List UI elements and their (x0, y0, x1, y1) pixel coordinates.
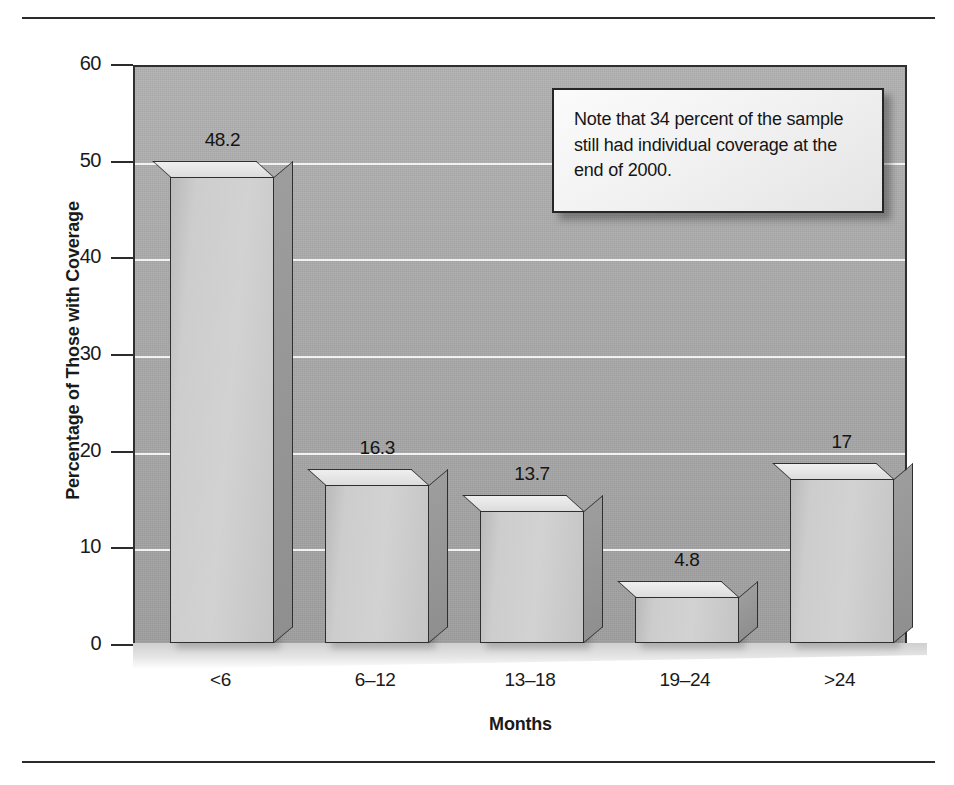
y-axis: 0102030405060 (0, 0, 133, 785)
bar-3: 13.7 (480, 511, 584, 643)
x-axis-title: Months (133, 714, 908, 735)
x-axis-tick-label: 19–24 (633, 669, 737, 691)
y-axis-tick-label: 30 (80, 342, 101, 365)
bar-value-label: 13.7 (480, 463, 584, 485)
bar-top-face (617, 581, 739, 597)
y-axis-tick-label: 10 (80, 535, 101, 558)
bar-top-face (307, 469, 429, 485)
bar-4: 4.8 (635, 597, 739, 643)
bar-front-face (790, 479, 894, 643)
bar-value-label: 16.3 (325, 437, 429, 459)
bar-front-face (480, 511, 584, 643)
bar-top-face (153, 161, 275, 177)
x-axis-tick-label: 13–18 (478, 669, 582, 691)
bar-5: 17 (790, 479, 894, 643)
bar-value-label: 4.8 (635, 549, 739, 571)
bar-value-label: 17 (790, 431, 894, 453)
bar-side-face (274, 161, 293, 643)
bar-2: 16.3 (325, 485, 429, 643)
y-axis-tick-label: 60 (80, 52, 101, 75)
y-axis-tick-label: 50 (80, 149, 101, 172)
top-divider-rule (22, 17, 935, 19)
bar-front-face (325, 485, 429, 643)
bar-top-face (462, 495, 584, 511)
note-callout: Note that 34 percent of the sample still… (552, 88, 884, 213)
bottom-divider-rule (22, 761, 935, 763)
bar-front-face (635, 597, 739, 643)
y-axis-tick-mark (111, 451, 133, 453)
x-axis-tick-label: >24 (788, 669, 892, 691)
figure-container: Percentage of Those with Coverage Months… (0, 0, 954, 785)
x-axis-tick-label: <6 (168, 669, 272, 691)
y-axis-tick-label: 20 (80, 439, 101, 462)
bar-top-face (772, 463, 894, 479)
bar-side-face (584, 495, 603, 643)
y-axis-tick-mark (111, 354, 133, 356)
bar-side-face (429, 469, 448, 643)
y-axis-tick-label: 40 (80, 245, 101, 268)
y-axis-tick-mark (111, 64, 133, 66)
y-axis-tick-mark (111, 257, 133, 259)
y-axis-tick-mark (111, 161, 133, 163)
bar-side-face (894, 463, 913, 643)
y-axis-tick-label: 0 (90, 632, 101, 655)
y-axis-tick-mark (111, 644, 133, 646)
bar-1: 48.2 (170, 177, 274, 643)
x-axis-tick-label: 6–12 (323, 669, 427, 691)
bar-value-label: 48.2 (170, 129, 274, 151)
bar-front-face (170, 177, 274, 643)
y-axis-tick-mark (111, 547, 133, 549)
bar-side-face (739, 581, 758, 643)
